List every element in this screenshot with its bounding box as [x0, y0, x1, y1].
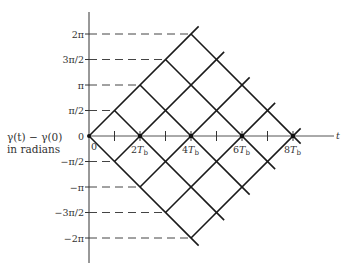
- y-tick-label: 3π/2: [62, 54, 84, 65]
- y-tick-label: −π/2: [61, 156, 84, 167]
- x-tick-label: 8Tb: [284, 144, 301, 157]
- x-tick-label: 2Tb: [131, 144, 148, 157]
- node-dot: [138, 134, 142, 138]
- y-tick-label: −3π/2: [55, 207, 85, 218]
- trellis-up-line: [89, 26, 199, 136]
- axes: [89, 12, 334, 263]
- y-tick-label: −2π: [64, 233, 84, 244]
- trellis-down-line: [191, 34, 301, 144]
- x-tick-label: 4Tb: [182, 144, 199, 157]
- x-tick-label: 6Tb: [233, 144, 250, 157]
- y-tick-label: π: [78, 80, 84, 91]
- trellis-down-line: [140, 85, 250, 195]
- trellis-up-line: [166, 103, 276, 213]
- y-tick-label: 2π: [72, 29, 84, 40]
- origin-label: 0: [91, 141, 97, 152]
- node-dot: [240, 134, 244, 138]
- y-axis-label-line1: γ(t) − γ(0): [7, 131, 62, 143]
- y-axis-label-line2: in radians: [7, 143, 60, 155]
- x-axis-label: t: [336, 130, 340, 141]
- origin-dot: [87, 134, 91, 138]
- phase-trellis-diagram: γ(t) − γ(0) in radians t 0 2π3π/2ππ/20−π…: [0, 0, 353, 273]
- trellis-down-line: [115, 111, 225, 221]
- node-dot: [291, 134, 295, 138]
- y-tick-label: π/2: [69, 105, 85, 116]
- y-tick-label: 0: [78, 131, 84, 142]
- y-tick-label: −π: [70, 182, 84, 193]
- trellis-up-line: [140, 77, 250, 187]
- node-dot: [189, 134, 193, 138]
